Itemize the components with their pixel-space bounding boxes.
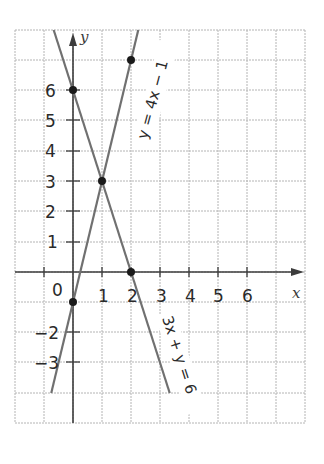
y-tick-label-5: 5 <box>45 111 56 131</box>
point-2-7 <box>127 56 135 64</box>
y-tick-label-1: 1 <box>47 232 58 252</box>
point-2-0 <box>127 268 135 276</box>
y-tick-label-neg2: −2 <box>34 323 59 343</box>
y-tick-label-2: 2 <box>45 202 56 222</box>
y-tick-label-3: 3 <box>45 172 56 192</box>
x-tick-label-3: 3 <box>156 286 167 306</box>
x-tick-label-2: 2 <box>127 286 138 306</box>
y-tick-label-neg3: −3 <box>34 353 59 373</box>
x-tick-label-1: 1 <box>98 286 109 306</box>
y-axis-label: y <box>79 28 89 46</box>
x-axis-label: x <box>292 284 301 302</box>
y-axis-arrow-icon <box>69 33 77 46</box>
point-0-6 <box>69 86 77 94</box>
x-tick-label-4: 4 <box>185 286 196 306</box>
y-tick-label-6: 6 <box>45 81 56 101</box>
coordinate-graph: y x 0 1 2 3 4 5 6 6 5 4 3 2 1 −2 −3 y = … <box>0 0 324 464</box>
y-tick-label-4: 4 <box>45 141 56 161</box>
x-tick-label-6: 6 <box>242 286 253 306</box>
x-axis-arrow-icon <box>291 268 304 276</box>
x-tick-label-5: 5 <box>213 286 224 306</box>
equation-label-y-4x-minus-1: y = 4x − 1 <box>133 58 171 141</box>
point-0-neg1 <box>69 298 77 306</box>
origin-label: 0 <box>52 280 63 300</box>
equation-label-3x-plus-y-6: 3x + y = 6 <box>158 314 200 397</box>
point-1-3-intersection <box>98 177 106 185</box>
